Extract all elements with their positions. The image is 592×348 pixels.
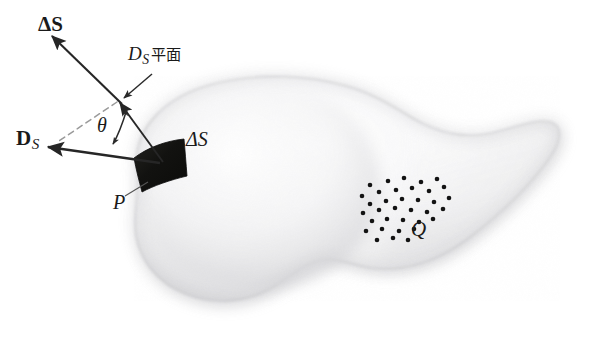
delta-s-area-symbol: ΔS (186, 128, 208, 150)
charge-dot (410, 186, 415, 191)
point-p-symbol: P (113, 191, 125, 213)
blob-grain (135, 77, 559, 301)
charge-dot (393, 206, 398, 211)
ds-vector-symbol: D (16, 126, 31, 150)
theta-angle-label: θ (97, 115, 107, 135)
charge-dot (394, 188, 399, 193)
charge-dot (400, 197, 405, 202)
delta-s-vector-label: ΔS (38, 14, 63, 35)
charge-dot (385, 217, 390, 222)
charge-dot (386, 179, 391, 184)
delta-s-area-label: ΔS (186, 129, 208, 149)
charge-dot (364, 229, 369, 234)
charge-dot (401, 218, 406, 223)
charge-dot (397, 229, 402, 234)
charge-dot (360, 194, 365, 199)
ds-plane-leader-arrow (124, 74, 152, 98)
charge-q-label: Q (411, 219, 426, 240)
charge-dot (377, 208, 382, 213)
dashed-guide-line (56, 102, 117, 143)
charge-dot (431, 217, 436, 222)
charge-dot (384, 199, 389, 204)
charge-dot (377, 190, 382, 195)
theta-symbol: θ (97, 114, 107, 136)
figure-canvas: ΔS DS平面 DS θ ΔS P Q (0, 0, 592, 348)
charged-body (135, 77, 562, 306)
charge-dot (447, 196, 452, 201)
charge-dot (361, 211, 366, 216)
ds-plane-suffix: 平面 (151, 46, 181, 64)
charge-dot (442, 185, 447, 190)
ds-plane-label: DS平面 (128, 44, 181, 67)
charge-dot (435, 177, 440, 182)
charge-dot (375, 238, 380, 243)
charge-dot (416, 198, 421, 203)
electric-flux-diagram (0, 0, 592, 348)
charge-dot (402, 176, 407, 181)
ds-plane-subscript: S (142, 52, 149, 67)
ds-plane-symbol: D (128, 43, 142, 64)
charge-dot (419, 180, 424, 185)
charge-dot (409, 208, 414, 213)
charge-dot (425, 210, 430, 215)
charge-dot (370, 219, 375, 224)
delta-s-vector-symbol: ΔS (38, 12, 63, 36)
charge-dot (427, 189, 432, 194)
charge-dot (380, 227, 385, 232)
theta-angle-arc (113, 109, 127, 144)
charge-dot (406, 238, 411, 243)
charge-dot (368, 202, 373, 207)
delta-s-normal-vector-arrow (52, 36, 122, 104)
charge-dot (441, 207, 446, 212)
ds-vector-subscript: S (32, 136, 40, 152)
charge-q-symbol: Q (411, 217, 426, 241)
charge-dot (391, 236, 396, 241)
ds-vector-label: DS (16, 128, 39, 152)
charge-dot (368, 183, 373, 188)
charge-dot (432, 200, 437, 205)
point-p-label: P (113, 192, 125, 212)
